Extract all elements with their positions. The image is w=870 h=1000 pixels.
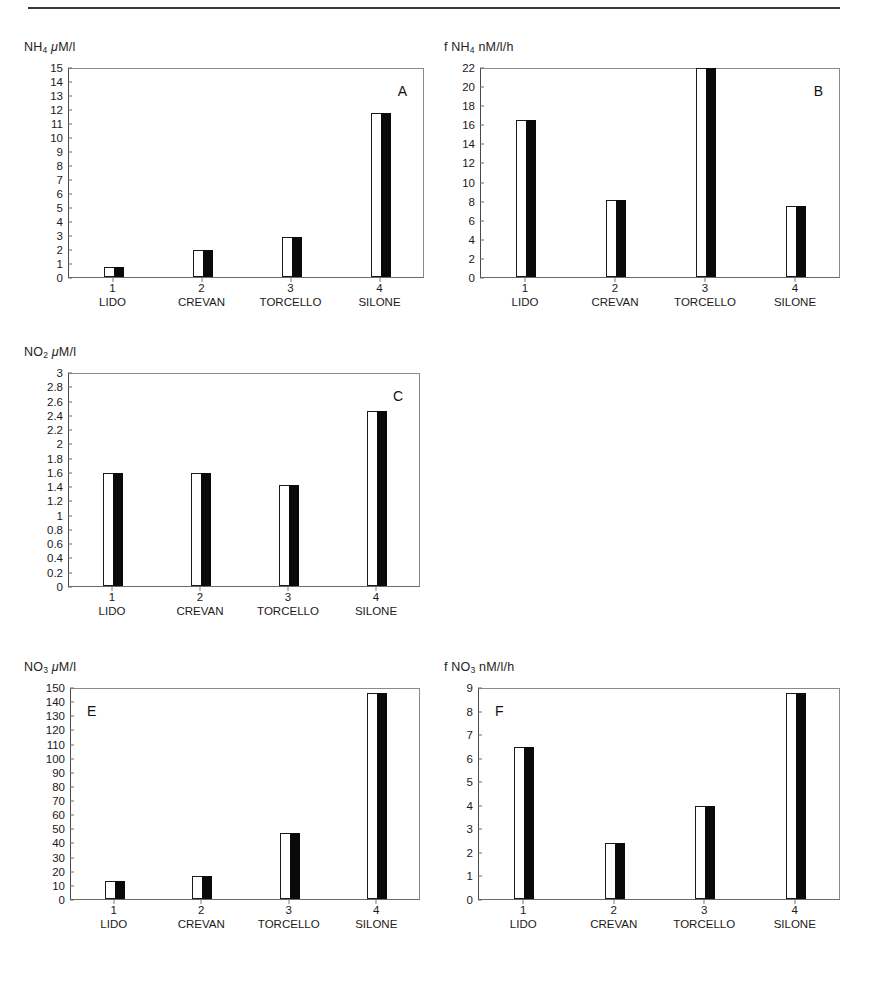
panel-F-bar — [514, 747, 534, 899]
panel-B-ytick-mark — [480, 220, 484, 221]
panel-E-ytick-mark — [70, 801, 74, 802]
panel-F-xtick-mark — [704, 900, 705, 904]
panel-C-ytick-mark — [68, 387, 72, 388]
panel-E-bar — [105, 881, 125, 899]
xtick-site-name: SILONE — [358, 295, 400, 310]
panel-A-ytick-mark — [68, 194, 72, 195]
bar-half-black — [524, 747, 534, 899]
panel-A-ytick-label: 10 — [19, 132, 68, 144]
bar-half-black — [706, 68, 716, 277]
bar-half-white — [191, 473, 201, 586]
panel-C-ytick-mark — [68, 458, 72, 459]
bar-half-white — [367, 693, 377, 899]
panel-B-ytick-label: 2 — [439, 253, 480, 265]
panel-A-axis-title: NH4 μM/l — [24, 40, 75, 54]
panel-E-ytick-label: 30 — [19, 852, 70, 864]
bar-half-black — [377, 411, 387, 586]
panel-E-ytick-label: 110 — [19, 739, 70, 751]
panel-E-ytick-label: 150 — [19, 682, 70, 694]
panel-C-ytick-mark — [68, 544, 72, 545]
panel-B-xtick-group: 4SILONE — [774, 282, 816, 310]
panel-E-y-axis: 0102030405060708090100110120130140150 — [24, 682, 70, 900]
panel-B-ytick-mark — [480, 258, 484, 259]
bar-half-white — [367, 411, 377, 586]
panel-E-bar — [192, 876, 212, 899]
panel-C-ytick-label: 2.8 — [19, 381, 68, 393]
panel-E-ytick-mark — [70, 786, 74, 787]
panel-E-bar — [280, 833, 300, 899]
panel-B-xtick-group: 2CREVAN — [591, 282, 638, 310]
xtick-site-name: TORCELLO — [673, 917, 735, 932]
panel-A-letter: A — [398, 83, 407, 99]
panel-C-ytick-mark — [68, 558, 72, 559]
panel-C-ytick-mark — [68, 529, 72, 530]
panel-C-xtick-mark — [376, 587, 377, 591]
bar-half-black — [114, 267, 124, 277]
panel-C-bar — [279, 485, 299, 586]
panel-C-ytick-label: 2.4 — [19, 410, 68, 422]
panel-F-ytick-mark — [478, 782, 482, 783]
panel-C-xtick-group: 3TORCELLO — [257, 591, 319, 619]
panel-C-ytick-mark — [68, 373, 72, 374]
panel-E-ytick-label: 70 — [19, 795, 70, 807]
panel-E-ytick-label: 10 — [19, 880, 70, 892]
bar-half-black — [203, 250, 213, 277]
panel-F-ytick-label: 2 — [439, 847, 478, 859]
xtick-site-name: TORCELLO — [257, 604, 319, 619]
panel-C-ytick-mark — [68, 472, 72, 473]
panel-F-axis-title: f NO3 nM/l/h — [444, 660, 514, 674]
panel-C-ytick-label: 1.8 — [19, 453, 68, 465]
panel-A-ytick-label: 4 — [19, 216, 68, 228]
panel-F-ytick-mark — [478, 900, 482, 901]
bar-half-black — [289, 485, 299, 586]
panel-A-ytick-label: 9 — [19, 146, 68, 158]
panel-F-ytick-mark — [478, 876, 482, 877]
xtick-number: 2 — [178, 904, 225, 917]
panel-A-ytick-label: 5 — [19, 202, 68, 214]
bar-half-white — [282, 237, 292, 277]
xtick-number: 2 — [176, 591, 223, 604]
panel-F: f NO3 nM/l/h 0123456789 F 1LIDO2CREVAN3T… — [444, 660, 854, 960]
panel-E-xtick-mark — [113, 900, 114, 904]
panel-B-ytick-mark — [480, 68, 484, 69]
panel-B-ytick-mark — [480, 163, 484, 164]
panel-F-bar — [695, 806, 715, 899]
panel-B-axis-title: f NH4 nM/l/h — [444, 40, 514, 54]
xtick-site-name: LIDO — [512, 295, 539, 310]
panel-C-xtick-group: 1LIDO — [99, 591, 126, 619]
panel-F-ytick-mark — [478, 805, 482, 806]
panel-B-xtick-mark — [615, 278, 616, 282]
panel-E-ytick-mark — [70, 843, 74, 844]
panel-C-plot-area: 00.20.40.60.811.21.41.61.822.22.42.62.83… — [24, 367, 434, 639]
panel-C-ytick-label: 3 — [19, 367, 68, 379]
panel-F-ytick-label: 7 — [439, 729, 478, 741]
panel-B-bar — [606, 200, 626, 277]
panel-A-bar — [104, 267, 124, 277]
panel-F-y-axis: 0123456789 — [444, 682, 478, 900]
bar-half-white — [786, 693, 796, 899]
panel-F-xtick-group: 2CREVAN — [590, 904, 637, 932]
panel-F-letter: F — [495, 703, 504, 719]
bar-half-white — [192, 876, 202, 899]
xtick-number: 2 — [591, 282, 638, 295]
bar-half-white — [605, 843, 615, 899]
panel-F-ytick-label: 3 — [439, 823, 478, 835]
panel-B-xtick-group: 3TORCELLO — [674, 282, 736, 310]
panel-A-ytick-mark — [68, 222, 72, 223]
panel-F-ytick-mark — [478, 735, 482, 736]
panel-C-ytick-label: 0 — [19, 581, 68, 593]
bar-half-white — [104, 267, 114, 277]
xtick-site-name: CREVAN — [178, 917, 225, 932]
panel-E-ytick-label: 100 — [19, 753, 70, 765]
bar-half-black — [796, 693, 806, 899]
panel-E-plot-frame: E — [70, 688, 420, 900]
panel-C: NO2 μM/l 00.20.40.60.811.21.41.61.822.22… — [24, 345, 434, 640]
panel-E-ytick-mark — [70, 702, 74, 703]
panel-C-ytick-mark — [68, 587, 72, 588]
panel-C-xtick-mark — [112, 587, 113, 591]
panel-C-ytick-label: 0.4 — [19, 552, 68, 564]
xtick-site-name: CREVAN — [591, 295, 638, 310]
panel-E-xtick-group: 3TORCELLO — [258, 904, 320, 932]
panel-B-ytick-label: 12 — [439, 157, 480, 169]
panel-E-plot-area: 0102030405060708090100110120130140150 E … — [24, 682, 434, 960]
